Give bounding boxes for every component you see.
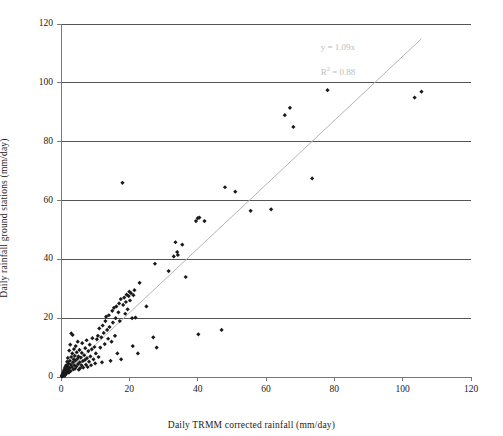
data-point: [180, 243, 184, 247]
data-point: [151, 335, 155, 339]
data-point: [117, 301, 121, 305]
data-point: [184, 275, 188, 279]
slope-equation: y = 1.09x: [321, 42, 355, 52]
y-tick-label-120: 120: [39, 18, 53, 28]
data-point: [219, 328, 223, 332]
data-point: [124, 300, 128, 304]
data-point: [167, 269, 171, 273]
x-axis-label: Daily TRMM corrected rainfall (mm/day): [0, 420, 503, 430]
x-tick-label-20: 20: [117, 384, 141, 394]
x-tick-label-60: 60: [254, 384, 278, 394]
data-point: [102, 331, 106, 335]
data-point: [155, 345, 159, 349]
data-point: [100, 360, 104, 364]
x-tick-label-0: 0: [49, 384, 73, 394]
data-point: [419, 90, 423, 94]
x-tick-label-80: 80: [322, 384, 346, 394]
data-point: [202, 219, 206, 223]
data-point: [223, 185, 227, 189]
scatter-chart: Daily rainfall ground stations (mm/day) …: [0, 0, 503, 436]
data-point: [325, 88, 329, 92]
x-tick-label-40: 40: [186, 384, 210, 394]
data-point: [114, 316, 118, 320]
x-tick-label-100: 100: [391, 384, 415, 394]
data-point: [249, 209, 253, 213]
linear-fit-line: [61, 39, 421, 377]
data-point: [116, 310, 120, 314]
data-point: [103, 319, 107, 323]
data-point: [172, 254, 176, 258]
data-point: [109, 340, 113, 344]
data-point: [176, 253, 180, 257]
data-point: [101, 323, 105, 327]
data-point: [144, 304, 148, 308]
data-point: [120, 181, 124, 185]
y-tick-label-80: 80: [44, 136, 54, 146]
data-point: [131, 344, 135, 348]
data-point: [106, 337, 110, 341]
data-point: [310, 176, 314, 180]
data-point: [121, 303, 125, 307]
data-point: [288, 106, 292, 110]
data-point: [173, 240, 177, 244]
data-point: [115, 351, 119, 355]
data-point: [283, 113, 287, 117]
y-tick-label-40: 40: [44, 253, 54, 263]
data-point: [175, 250, 179, 254]
data-point: [128, 298, 132, 302]
data-point: [133, 315, 137, 319]
data-point: [130, 316, 134, 320]
data-point: [413, 95, 417, 99]
data-point: [111, 320, 115, 324]
y-tick-label-0: 0: [48, 371, 53, 381]
data-point: [269, 207, 273, 211]
r-squared: R2 = 0.88: [321, 65, 356, 77]
data-point: [108, 359, 112, 363]
data-point: [136, 351, 140, 355]
data-point: [137, 281, 141, 285]
data-point: [153, 262, 157, 266]
x-tick-label-120: 120: [459, 384, 483, 394]
data-point: [196, 332, 200, 336]
data-point: [107, 325, 111, 329]
data-point: [103, 342, 107, 346]
data-point: [291, 125, 295, 129]
y-tick-label-60: 60: [44, 195, 54, 205]
y-tick-label-100: 100: [39, 77, 53, 87]
data-point: [132, 288, 136, 292]
data-point: [233, 190, 237, 194]
y-axis-label: Daily rainfall ground stations (mm/day): [0, 138, 9, 297]
data-point: [119, 357, 123, 361]
data-point: [126, 307, 130, 311]
data-point: [105, 328, 109, 332]
y-tick-label-20: 20: [44, 312, 54, 322]
data-point: [113, 334, 117, 338]
